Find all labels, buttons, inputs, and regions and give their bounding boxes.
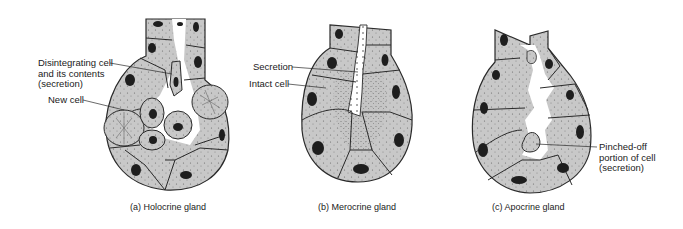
gland-types-figure: Disintegrating cell and its contents (se…	[0, 0, 683, 229]
caption-holocrine-gland: (a) Holocrine gland	[130, 202, 206, 212]
merocrine-gland-drawing	[288, 25, 412, 182]
label-new-cell: New cell	[48, 95, 84, 106]
caption-merocrine-gland: (b) Merocrine gland	[318, 202, 396, 212]
holocrine-gland-drawing	[83, 19, 229, 190]
label-pinched-off-portion: Pinched-off portion of cell (secretion)	[599, 142, 656, 174]
label-secretion: Secretion	[253, 62, 293, 73]
label-disintegrating-cell: Disintegrating cell and its contents (se…	[38, 58, 113, 90]
gland-illustrations	[0, 0, 683, 229]
label-intact-cell: Intact cell	[249, 79, 289, 90]
apocrine-gland-drawing	[472, 30, 597, 193]
caption-apocrine-gland: (c) Apocrine gland	[492, 202, 565, 212]
